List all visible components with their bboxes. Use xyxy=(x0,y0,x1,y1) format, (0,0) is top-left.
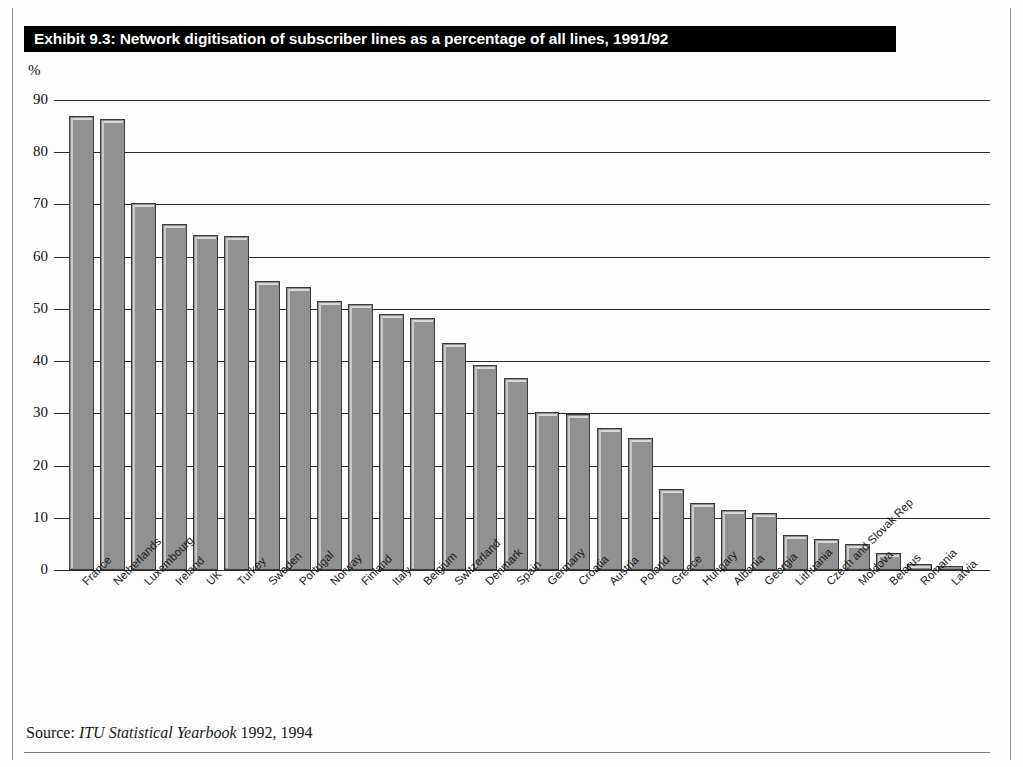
bar xyxy=(69,116,94,570)
bar-top-highlight xyxy=(723,512,744,514)
bar-top-highlight xyxy=(226,238,247,240)
chart-plot-area: % 9080706050403020100 FranceNetherlandsL… xyxy=(0,0,1023,700)
bar xyxy=(597,428,622,570)
bar xyxy=(348,304,373,570)
bar-left-highlight xyxy=(599,430,601,568)
bar-top-highlight xyxy=(785,537,806,539)
bar-top-highlight xyxy=(133,205,154,207)
bar xyxy=(193,235,218,570)
bar-top-highlight xyxy=(630,440,651,442)
bar-top-highlight xyxy=(754,515,775,517)
bars-group xyxy=(0,0,1023,600)
bar xyxy=(535,412,560,570)
bar-top-highlight xyxy=(71,118,92,120)
bar-left-highlight xyxy=(537,414,539,568)
bar xyxy=(224,236,249,570)
bar xyxy=(379,314,404,570)
bar-left-highlight xyxy=(102,121,104,568)
bar-left-highlight xyxy=(475,367,477,568)
bar-left-highlight xyxy=(133,205,135,568)
bar xyxy=(442,343,467,570)
bar-left-highlight xyxy=(350,306,352,568)
exhibit-page: Exhibit 9.3: Network digitisation of sub… xyxy=(0,0,1023,767)
bar-left-highlight xyxy=(195,237,197,568)
bar-left-highlight xyxy=(444,345,446,568)
source-publication: ITU Statistical Yearbook xyxy=(79,724,237,741)
bar-top-highlight xyxy=(444,345,465,347)
bar-top-highlight xyxy=(661,491,682,493)
bar xyxy=(100,119,125,570)
bar-left-highlight xyxy=(226,238,228,568)
bar-top-highlight xyxy=(350,306,371,308)
bar-left-highlight xyxy=(164,226,166,568)
bar-left-highlight xyxy=(568,416,570,568)
bar-top-highlight xyxy=(412,320,433,322)
source-note: Source: ITU Statistical Yearbook 1992, 1… xyxy=(26,724,313,742)
bar-top-highlight xyxy=(164,226,185,228)
bar-left-highlight xyxy=(71,118,73,568)
source-prefix: Source: xyxy=(26,724,75,741)
bar xyxy=(317,301,342,570)
bar xyxy=(255,281,280,570)
bar-left-highlight xyxy=(630,440,632,568)
bar-top-highlight xyxy=(599,430,620,432)
bar xyxy=(410,318,435,570)
bar-top-highlight xyxy=(692,505,713,507)
bar xyxy=(504,378,529,570)
source-divider xyxy=(24,752,990,753)
bar-top-highlight xyxy=(568,416,589,418)
bar-left-highlight xyxy=(257,283,259,568)
bar-left-highlight xyxy=(288,289,290,568)
bar-top-highlight xyxy=(102,121,123,123)
source-years: 1992, 1994 xyxy=(241,724,313,741)
bar-top-highlight xyxy=(257,283,278,285)
bar-top-highlight xyxy=(475,367,496,369)
bar-left-highlight xyxy=(412,320,414,568)
bar xyxy=(131,203,156,570)
bar xyxy=(162,224,187,570)
bar xyxy=(286,287,311,570)
bar-top-highlight xyxy=(537,414,558,416)
bar xyxy=(628,438,653,570)
bar-top-highlight xyxy=(195,237,216,239)
bar-left-highlight xyxy=(319,303,321,568)
bar-left-highlight xyxy=(506,380,508,568)
bar-top-highlight xyxy=(319,303,340,305)
bar-top-highlight xyxy=(506,380,527,382)
bar-top-highlight xyxy=(288,289,309,291)
bar-top-highlight xyxy=(381,316,402,318)
bar-top-highlight xyxy=(816,541,837,543)
bar-left-highlight xyxy=(381,316,383,568)
